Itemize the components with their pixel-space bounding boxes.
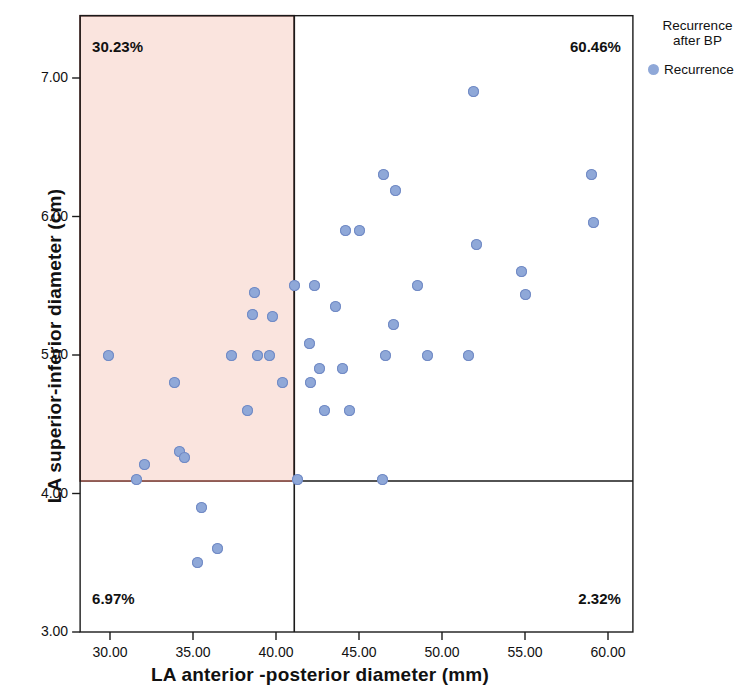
data-point — [520, 289, 531, 300]
x-tick-label: 30.00 — [70, 644, 150, 660]
data-point — [196, 502, 207, 513]
data-point — [412, 280, 423, 291]
scatter-plot-figure: 30.0035.0040.0045.0050.0055.0060.003.004… — [0, 0, 747, 700]
data-point — [422, 350, 433, 361]
x-axis-title: LA anterior -posterior diameter (mm) — [0, 664, 640, 686]
data-point — [226, 350, 237, 361]
quadrant-label-upper-right: 60.46% — [541, 38, 621, 55]
shaded-region — [80, 16, 294, 481]
data-point — [289, 280, 300, 291]
legend-marker-icon — [648, 64, 659, 75]
data-point — [377, 474, 388, 485]
x-tick-label: 60.00 — [568, 644, 648, 660]
quadrant-label-lower-left: 6.97% — [92, 590, 172, 607]
quadrant-label-upper-left: 30.23% — [92, 38, 172, 55]
data-point — [354, 225, 365, 236]
data-point — [314, 363, 325, 374]
legend: Recurrence after BP Recurrence — [648, 18, 747, 77]
x-tick-label: 50.00 — [402, 644, 482, 660]
legend-entry-recurrence: Recurrence — [648, 62, 747, 77]
data-point — [340, 225, 351, 236]
data-point — [380, 350, 391, 361]
y-axis-title: LA superior-inferior diameter (cm) — [44, 36, 66, 656]
data-point — [390, 185, 401, 196]
legend-entry-label: Recurrence — [664, 62, 734, 77]
x-tick-label: 45.00 — [319, 644, 399, 660]
data-point — [588, 217, 599, 228]
quadrant-label-lower-right: 2.32% — [541, 590, 621, 607]
data-point — [309, 280, 320, 291]
x-tick-label: 35.00 — [153, 644, 233, 660]
x-tick-label: 40.00 — [236, 644, 316, 660]
data-point — [103, 350, 114, 361]
data-point — [344, 405, 355, 416]
data-point — [252, 350, 263, 361]
data-point — [463, 350, 474, 361]
data-point — [471, 239, 482, 250]
reference-lines — [294, 16, 633, 632]
x-tick-label: 55.00 — [485, 644, 565, 660]
data-point — [267, 311, 278, 322]
data-point — [319, 405, 330, 416]
legend-title: Recurrence after BP — [648, 18, 747, 48]
data-point — [264, 350, 275, 361]
data-point — [249, 287, 260, 298]
